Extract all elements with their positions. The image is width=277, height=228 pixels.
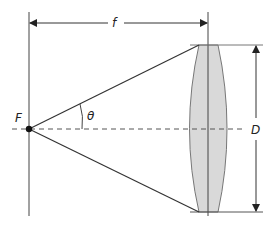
focal-length-label: f	[112, 16, 118, 30]
angle-label: θ	[87, 109, 95, 123]
lower-ray	[29, 129, 199, 212]
focal-point-dot	[26, 126, 32, 132]
diameter-label: D	[251, 123, 260, 137]
lens-diagram: f D θ F	[0, 0, 277, 228]
focal-point-label: F	[15, 111, 23, 125]
angle-arc	[80, 104, 83, 129]
upper-ray	[29, 45, 199, 129]
